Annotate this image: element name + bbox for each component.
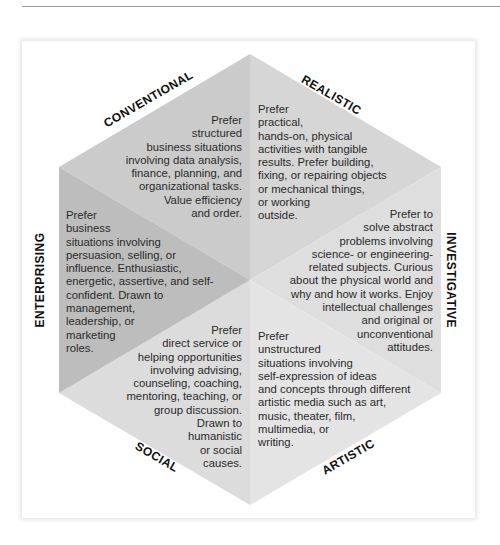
- description-conventional: Prefer structured business situations in…: [126, 114, 242, 220]
- label-investigative: INVESTIGATIVE: [444, 232, 458, 328]
- description-realistic: Prefer practical, hands-on, physical act…: [258, 103, 387, 223]
- description-enterprising: Prefer business situations involving per…: [66, 209, 214, 355]
- description-artistic: Prefer unstructured situations involving…: [258, 330, 410, 450]
- label-enterprising: ENTERPRISING: [33, 233, 47, 328]
